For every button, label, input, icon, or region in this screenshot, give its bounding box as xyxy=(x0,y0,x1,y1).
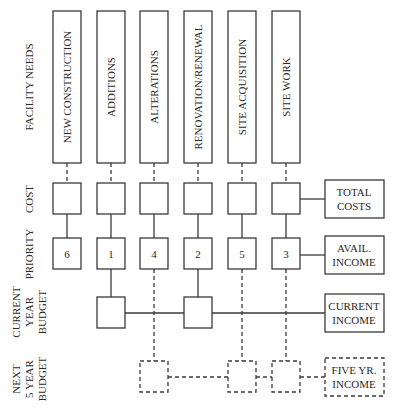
need-label-new-construction: NEW CONSTRUCTION xyxy=(61,31,73,144)
five-yr-income-line1: FIVE YR. xyxy=(332,364,377,376)
priority-value: 5 xyxy=(239,248,245,260)
five-year-box-site-work xyxy=(272,361,300,392)
need-label-alterations: ALTERATIONS xyxy=(148,50,160,124)
five-year-box-site-acquisition xyxy=(228,361,256,392)
priority-value: 6 xyxy=(64,248,70,260)
cost-box-6 xyxy=(272,183,300,214)
avail-income-line2: INCOME xyxy=(332,256,376,268)
row-label-next-line2: 5 YEAR xyxy=(23,359,35,397)
avail-income-line1: AVAIL. xyxy=(337,242,371,254)
five-yr-income-line2: INCOME xyxy=(332,378,376,390)
five-year-box-alterations xyxy=(140,361,168,392)
cost-box-5 xyxy=(228,183,256,214)
row-label-current-line2: YEAR xyxy=(23,296,35,327)
facility-planning-diagram: NEW CONSTRUCTION ADDITIONS ALTERATIONS R… xyxy=(0,0,398,411)
row-label-priority: PRIORITY xyxy=(23,229,35,280)
need-label-site-work: SITE WORK xyxy=(280,57,292,116)
current-year-box-renovation xyxy=(184,297,212,328)
need-label-renovation: RENOVATION/RENEWAL xyxy=(192,24,204,149)
cost-box-4 xyxy=(184,183,212,214)
current-year-box-additions xyxy=(97,297,125,328)
current-income-line1: CURRENT xyxy=(328,300,380,312)
priority-value: 1 xyxy=(108,248,114,260)
row-label-next-line3: BUDGET xyxy=(36,356,48,401)
total-costs-line1: TOTAL xyxy=(337,186,372,198)
row-label-current-line1: CURRENT xyxy=(10,286,22,338)
current-income-line2: INCOME xyxy=(332,314,376,326)
cost-box-3 xyxy=(140,183,168,214)
priority-value: 2 xyxy=(195,248,201,260)
dashed-connectors-needs-cost xyxy=(67,163,286,183)
need-label-additions: ADDITIONS xyxy=(105,57,117,117)
need-label-site-acquisition: SITE ACQUISITION xyxy=(236,39,248,135)
row-label-cost: COST xyxy=(23,185,35,213)
row-label-current-line3: BUDGET xyxy=(36,289,48,334)
row-label-facility-needs: FACILITY NEEDS xyxy=(23,43,35,130)
cost-box-2 xyxy=(97,183,125,214)
row-label-next-line1: NEXT xyxy=(10,364,22,394)
cost-box-1 xyxy=(53,183,81,214)
total-costs-line2: COSTS xyxy=(337,200,371,212)
priority-value: 4 xyxy=(151,248,157,260)
priority-value: 3 xyxy=(283,248,289,260)
